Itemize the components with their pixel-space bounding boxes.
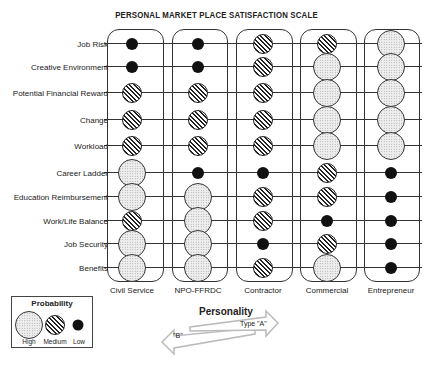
probability-high-icon <box>377 132 405 160</box>
legend-low-label: Low <box>73 338 85 345</box>
column-label: Civil Service <box>97 286 167 295</box>
row-label: Job Security <box>64 240 108 249</box>
legend-high-label: High <box>22 338 35 345</box>
row-label: Work/Life Balance <box>43 217 108 226</box>
column-label: Commercial <box>292 286 362 295</box>
column-label: Entrepreneur <box>356 286 426 295</box>
probability-high-icon <box>313 132 341 160</box>
personality-a-label: Type "A" <box>240 320 267 327</box>
probability-medium-icon <box>253 34 273 54</box>
legend-medium-icon <box>45 315 65 335</box>
probability-low-icon <box>126 61 138 73</box>
probability-low-icon <box>385 191 397 203</box>
probability-medium-icon <box>122 211 142 231</box>
column-label: NPO-FFRDC <box>163 286 233 295</box>
personality-arrows-icon <box>160 300 280 360</box>
row-label: Benefits <box>79 264 108 273</box>
probability-medium-icon <box>122 136 142 156</box>
probability-legend: Probability High Medium Low <box>11 296 93 348</box>
legend-high-icon <box>15 311 43 339</box>
row-label: Career Ladder <box>56 169 108 178</box>
probability-medium-icon <box>122 110 142 130</box>
probability-medium-icon <box>253 211 273 231</box>
probability-medium-icon <box>317 234 337 254</box>
probability-medium-icon <box>317 187 337 207</box>
probability-medium-icon <box>253 83 273 103</box>
probability-high-icon <box>377 53 405 81</box>
row-label: Job Risk <box>77 40 108 49</box>
probability-low-icon <box>385 215 397 227</box>
probability-high-icon <box>377 79 405 107</box>
probability-high-icon <box>313 254 341 282</box>
probability-medium-icon <box>188 136 208 156</box>
probability-high-icon <box>118 183 146 211</box>
probability-high-icon <box>377 106 405 134</box>
probability-low-icon <box>385 262 397 274</box>
probability-high-icon <box>313 79 341 107</box>
probability-low-icon <box>257 238 269 250</box>
row-label: Change <box>80 116 108 125</box>
probability-medium-icon <box>253 57 273 77</box>
personality-b-label: "B" <box>173 332 183 339</box>
probability-medium-icon <box>122 83 142 103</box>
legend-medium-label: Medium <box>43 338 66 345</box>
probability-medium-icon <box>317 34 337 54</box>
probability-high-icon <box>118 254 146 282</box>
row-label: Education Reimbursement <box>14 193 108 202</box>
probability-medium-icon <box>253 258 273 278</box>
column-label: Contractor <box>228 286 298 295</box>
probability-medium-icon <box>188 110 208 130</box>
legend-low-icon <box>73 320 84 331</box>
probability-high-icon <box>184 254 212 282</box>
probability-medium-icon <box>253 187 273 207</box>
probability-medium-icon <box>253 110 273 130</box>
probability-low-icon <box>192 167 204 179</box>
probability-low-icon <box>321 215 333 227</box>
probability-medium-icon <box>317 163 337 183</box>
row-label: Creative Environment <box>31 63 108 72</box>
row-label: Potential Financial Reward <box>13 89 108 98</box>
probability-high-icon <box>313 106 341 134</box>
probability-medium-icon <box>188 83 208 103</box>
probability-low-icon <box>192 38 204 50</box>
probability-low-icon <box>385 167 397 179</box>
legend-title: Probability <box>12 299 92 308</box>
probability-low-icon <box>385 238 397 250</box>
probability-low-icon <box>192 61 204 73</box>
probability-medium-icon <box>253 136 273 156</box>
probability-low-icon <box>126 38 138 50</box>
probability-low-icon <box>257 167 269 179</box>
chart-title: PERSONAL MARKET PLACE SATISFACTION SCALE <box>17 10 415 20</box>
row-label: Workload <box>74 142 108 151</box>
probability-high-icon <box>313 53 341 81</box>
